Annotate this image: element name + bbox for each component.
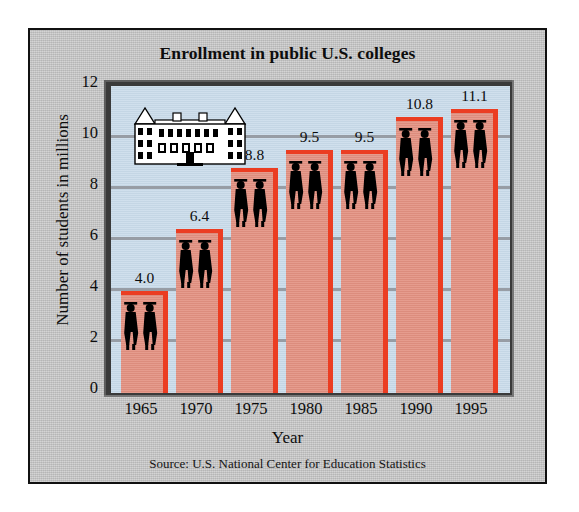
graduate-pair-icon — [121, 299, 161, 355]
y-tick-label: 12 — [72, 74, 98, 91]
bar-1990-body — [396, 117, 443, 393]
bar-1985[interactable]: 9.5 — [341, 86, 388, 393]
x-axis-title: Year — [30, 428, 545, 448]
bar-1995-body — [451, 109, 498, 393]
bar-1970-value: 6.4 — [176, 208, 223, 224]
x-tick-label-1980: 1980 — [276, 401, 336, 418]
bar-series: 4.0 — [111, 86, 510, 393]
y-tick-label: 6 — [72, 227, 98, 244]
bar-1985-body — [341, 150, 388, 393]
bar-1970-body — [176, 229, 223, 393]
bar-1965-value: 4.0 — [121, 270, 168, 286]
bar-1980-body — [286, 150, 333, 393]
y-tick-label: 8 — [72, 176, 98, 193]
x-axis-ticks: 1965 1970 1975 1980 1985 1990 1995 — [104, 401, 514, 425]
x-tick-label-1970: 1970 — [166, 401, 226, 418]
graduate-pair-icon — [451, 117, 491, 173]
plot-area: 4.0 — [111, 86, 510, 393]
graduate-pair-icon — [396, 125, 436, 181]
bar-1975-body — [231, 168, 278, 393]
plot-frame: 4.0 — [104, 80, 514, 397]
x-tick-label-1985: 1985 — [331, 401, 391, 418]
y-tick-label: 0 — [72, 380, 98, 397]
chart-card: Enrollment in public U.S. colleges Numbe… — [28, 28, 547, 484]
bar-1995[interactable]: 11.1 — [451, 86, 498, 393]
bar-1965[interactable]: 4.0 — [121, 86, 168, 393]
graduate-pair-icon — [341, 158, 381, 214]
x-tick-label-1975: 1975 — [221, 401, 281, 418]
chart-title: Enrollment in public U.S. colleges — [30, 43, 545, 64]
bar-1980-value: 9.5 — [286, 129, 333, 145]
bar-1985-value: 9.5 — [341, 129, 388, 145]
y-tick-label: 4 — [72, 278, 98, 295]
bar-1975[interactable]: 8.8 — [231, 86, 278, 393]
y-tick-label: 2 — [72, 329, 98, 346]
graduate-pair-icon — [231, 176, 271, 232]
x-tick-label-1995: 1995 — [441, 401, 501, 418]
bar-1975-value: 8.8 — [231, 147, 278, 163]
bar-1990[interactable]: 10.8 — [396, 86, 443, 393]
x-tick-label-1965: 1965 — [111, 401, 171, 418]
bar-1995-value: 11.1 — [451, 88, 498, 104]
y-tick-label: 10 — [72, 125, 98, 142]
y-axis-ticks: 12 10 8 6 4 2 0 — [66, 30, 98, 486]
bar-1980[interactable]: 9.5 — [286, 86, 333, 393]
bar-1990-value: 10.8 — [396, 96, 443, 112]
graduate-pair-icon — [286, 158, 326, 214]
bar-1970[interactable]: 6.4 — [176, 86, 223, 393]
source-note: Source: U.S. National Center for Educati… — [30, 456, 545, 472]
x-tick-label-1990: 1990 — [386, 401, 446, 418]
chart-page: Enrollment in public U.S. colleges Numbe… — [0, 0, 579, 512]
graduate-pair-icon — [176, 237, 216, 293]
bar-1965-body — [121, 291, 168, 393]
